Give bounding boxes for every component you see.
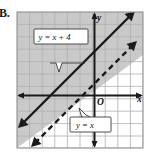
callout-label-lower: y = x — [75, 120, 94, 130]
callout-label-upper: y = x + 4 — [38, 32, 72, 42]
graph-figure: B. — [0, 0, 147, 156]
origin-label: O — [97, 97, 104, 107]
y-axis-label: y — [96, 13, 102, 23]
x-axis-label: x — [136, 94, 142, 104]
coordinate-plane-svg: y = x + 4 y = x y x O — [0, 0, 147, 156]
problem-number-label: B. — [0, 7, 9, 19]
